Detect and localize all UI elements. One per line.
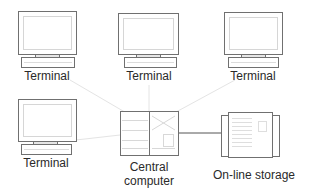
terminal-1-icon [19,12,77,68]
online-storage-label: On-line storage [208,168,300,182]
terminal-2-label: Terminal [120,69,178,83]
online-storage-icon [222,113,280,158]
central-computer-icon [121,112,179,156]
terminal-3-icon [225,13,283,68]
terminal-4-icon [19,100,77,155]
link-computer-terminal-4 [76,135,120,140]
terminal-1-label: Terminal [18,69,76,83]
central-computer-label-line1: Central [120,160,178,174]
terminal-3-label: Terminal [224,69,282,83]
central-computer-label-line2: computer [120,174,178,188]
terminal-2-icon [119,14,179,68]
terminal-4-label: Terminal [17,156,75,170]
